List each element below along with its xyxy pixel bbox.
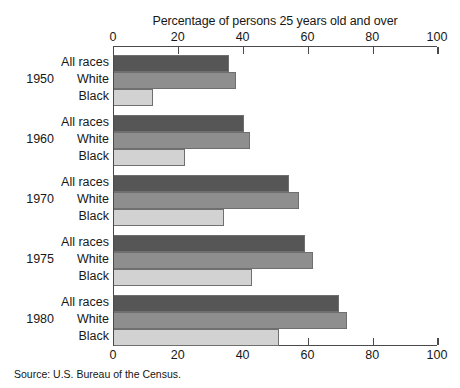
x-tick-label-bottom: 80: [365, 348, 379, 362]
series-label: All races: [5, 294, 109, 311]
bar: [114, 132, 250, 149]
bar: [114, 72, 236, 89]
plot-area: [113, 46, 437, 346]
bar: [114, 312, 347, 329]
series-label: Black: [5, 268, 109, 285]
bar: [114, 269, 252, 286]
bar: [114, 295, 339, 312]
bar: [114, 235, 305, 252]
x-axis-tick-labels-bottom: 020406080100: [0, 348, 460, 362]
year-label: 1975: [8, 252, 54, 266]
x-tick-label-top: 80: [365, 30, 379, 44]
x-tick-label-top: 20: [171, 30, 185, 44]
series-label: Black: [5, 88, 109, 105]
bar: [114, 252, 313, 269]
category-label-column: All racesWhiteBlack1950All racesWhiteBla…: [0, 46, 109, 346]
x-tick-label-top: 100: [427, 30, 448, 44]
bar: [114, 149, 185, 166]
x-tick-label-top: 0: [110, 30, 117, 44]
x-tick-label-top: 60: [300, 30, 314, 44]
x-axis-tick-labels-top: 020406080100: [0, 30, 460, 44]
x-tick-label-bottom: 40: [236, 348, 250, 362]
series-label: All races: [5, 114, 109, 131]
year-label: 1950: [8, 72, 54, 86]
x-tick-label-bottom: 100: [427, 348, 448, 362]
x-tick-mark: [243, 47, 244, 54]
x-tick-mark: [178, 47, 179, 54]
x-tick-label-top: 40: [236, 30, 250, 44]
chart-container: Percentage of persons 25 years old and o…: [0, 0, 460, 388]
bar: [114, 89, 153, 106]
series-label: Black: [5, 148, 109, 165]
series-label: Black: [5, 208, 109, 225]
series-label: All races: [5, 234, 109, 251]
source-note: Source: U.S. Bureau of the Census.: [14, 368, 181, 380]
x-tick-mark: [437, 338, 438, 345]
bar: [114, 115, 244, 132]
series-label: All races: [5, 174, 109, 191]
x-tick-mark: [308, 338, 309, 345]
x-tick-label-bottom: 60: [300, 348, 314, 362]
year-label: 1970: [8, 192, 54, 206]
bar: [114, 192, 299, 209]
year-label: 1960: [8, 132, 54, 146]
x-axis-title: Percentage of persons 25 years old and o…: [113, 14, 437, 28]
bar: [114, 175, 289, 192]
x-tick-label-bottom: 20: [171, 348, 185, 362]
year-label: 1980: [8, 312, 54, 326]
series-label: All races: [5, 54, 109, 71]
x-tick-mark: [308, 47, 309, 54]
x-tick-label-bottom: 0: [110, 348, 117, 362]
bar: [114, 55, 229, 72]
x-tick-mark: [437, 47, 438, 54]
x-tick-mark: [373, 338, 374, 345]
bar: [114, 329, 279, 346]
bar: [114, 209, 224, 226]
series-label: Black: [5, 328, 109, 345]
x-tick-mark: [373, 47, 374, 54]
